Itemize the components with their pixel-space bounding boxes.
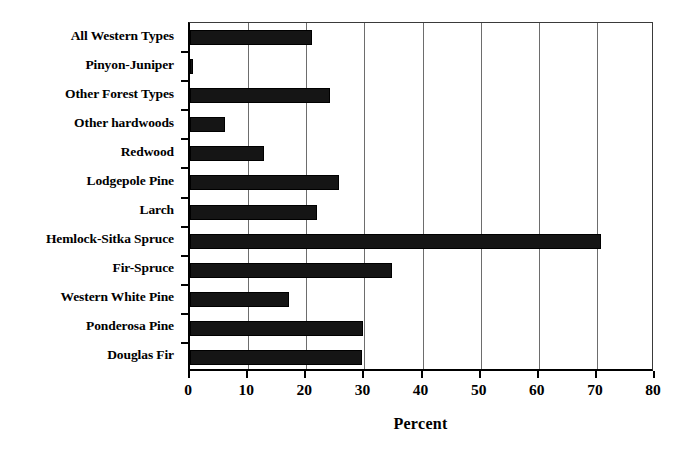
x-tick-mark-30	[362, 371, 364, 378]
y-tick-mark	[181, 80, 188, 82]
category-label-other-forest-types: Other Forest Types	[0, 86, 182, 102]
x-tick-mark-40	[421, 371, 423, 378]
y-tick-mark	[181, 342, 188, 344]
x-tick-mark-80	[653, 371, 655, 378]
x-tick-label-50: 50	[459, 381, 499, 399]
y-tick-mark	[181, 284, 188, 286]
bar-row	[190, 227, 652, 256]
x-tick-label-70: 70	[575, 381, 615, 399]
y-tick-mark	[181, 167, 188, 169]
bar-other-hardwoods	[190, 117, 225, 132]
x-axis-title: Percent	[188, 415, 653, 433]
bar-hemlock-sitka-spruce	[190, 234, 601, 249]
category-label-lodgepole-pine: Lodgepole Pine	[0, 173, 182, 189]
bar-pinyon-juniper	[190, 59, 193, 74]
plot-area	[188, 22, 653, 371]
bar-row	[190, 256, 652, 285]
x-tick-label-0: 0	[168, 381, 208, 399]
category-label-other-hardwoods: Other hardwoods	[0, 115, 182, 131]
category-label-pinyon-juniper: Pinyon-Juniper	[0, 57, 182, 73]
bar-row	[190, 81, 652, 110]
x-tick-label-20: 20	[284, 381, 324, 399]
x-tick-label-40: 40	[401, 381, 441, 399]
category-label-western-white-pine: Western White Pine	[0, 289, 182, 305]
x-tick-mark-10	[246, 371, 248, 378]
y-tick-mark	[181, 109, 188, 111]
x-tick-mark-50	[479, 371, 481, 378]
bar-row	[190, 198, 652, 227]
bar-row	[190, 110, 652, 139]
bar-all-western-types	[190, 30, 312, 45]
y-tick-mark	[181, 138, 188, 140]
category-label-fir-spruce: Fir-Spruce	[0, 260, 182, 276]
x-tick-label-10: 10	[226, 381, 266, 399]
bar-larch	[190, 205, 317, 220]
bar-row	[190, 314, 652, 343]
x-tick-mark-0	[188, 371, 190, 378]
y-tick-mark	[181, 51, 188, 53]
x-tick-label-80: 80	[633, 381, 673, 399]
bar-fir-spruce	[190, 263, 392, 278]
bar-row	[190, 52, 652, 81]
bar-row	[190, 343, 652, 372]
y-tick-mark	[181, 226, 188, 228]
bar-chart: All Western TypesPinyon-JuniperOther For…	[0, 0, 684, 466]
bar-row	[190, 285, 652, 314]
x-tick-label-30: 30	[342, 381, 382, 399]
y-tick-mark	[181, 197, 188, 199]
x-tick-mark-70	[595, 371, 597, 378]
bar-douglas-fir	[190, 350, 362, 365]
category-label-redwood: Redwood	[0, 144, 182, 160]
bar-other-forest-types	[190, 88, 330, 103]
y-tick-mark	[181, 255, 188, 257]
bar-lodgepole-pine	[190, 175, 339, 190]
bar-row	[190, 168, 652, 197]
category-label-larch: Larch	[0, 202, 182, 218]
x-tick-mark-60	[537, 371, 539, 378]
y-tick-mark	[181, 313, 188, 315]
category-label-ponderosa-pine: Ponderosa Pine	[0, 318, 182, 334]
x-tick-mark-20	[304, 371, 306, 378]
bar-row	[190, 23, 652, 52]
category-label-all-western-types: All Western Types	[0, 28, 182, 44]
bar-redwood	[190, 146, 264, 161]
x-tick-label-60: 60	[517, 381, 557, 399]
bar-western-white-pine	[190, 292, 289, 307]
category-label-douglas-fir: Douglas Fir	[0, 347, 182, 363]
bar-row	[190, 139, 652, 168]
category-label-hemlock-sitka-spruce: Hemlock-Sitka Spruce	[0, 231, 182, 247]
bar-ponderosa-pine	[190, 321, 363, 336]
